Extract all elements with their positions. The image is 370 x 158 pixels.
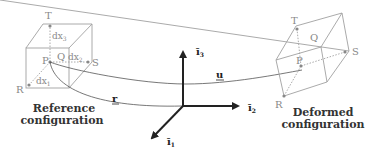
ref-edge-dx1: dx1: [36, 76, 51, 87]
ref-vertex-Q: Q: [57, 51, 65, 62]
coordinate-axes: [152, 52, 238, 138]
def-vertex-T: T: [291, 15, 298, 26]
def-vertex-S: S: [352, 46, 359, 57]
def-vertex-R: R: [275, 99, 283, 110]
axis-i1-label: ī1: [167, 136, 175, 148]
vector-u-label: u: [216, 69, 223, 80]
axis-i1-arrow: [152, 106, 183, 138]
vector-r-label: r: [112, 93, 118, 104]
displacement-curve-u: [50, 62, 302, 84]
ref-vertex-P: P: [42, 55, 49, 66]
ref-vertex-R: R: [16, 84, 24, 95]
ref-vertex-T: T: [45, 10, 52, 21]
reference-caption-line2: configuration: [20, 114, 103, 127]
deformed-caption-line2: configuration: [281, 118, 364, 131]
def-vertex-P: P: [296, 55, 303, 66]
deformation-diagram: T dx3 P Q dx2 S dx1 R Reference configur…: [0, 0, 370, 158]
ref-edge-dx3: dx3: [52, 31, 67, 42]
ref-edge-dx2: dx2: [68, 52, 83, 63]
axis-i3-label: ī3: [196, 46, 204, 58]
ref-vertex-S: S: [92, 57, 99, 68]
axis-i2-label: ī2: [248, 102, 256, 114]
def-vertex-Q: Q: [310, 32, 318, 43]
